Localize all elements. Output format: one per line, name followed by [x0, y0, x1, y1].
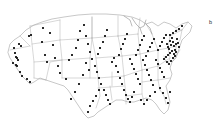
data-point — [129, 58, 131, 60]
data-point — [79, 30, 81, 32]
data-point — [168, 48, 170, 50]
data-point — [129, 101, 131, 103]
data-point — [167, 102, 169, 104]
data-point — [59, 72, 61, 74]
data-point — [12, 62, 14, 64]
data-point — [175, 30, 177, 32]
data-point — [170, 44, 172, 46]
data-point — [173, 45, 175, 47]
data-point — [161, 41, 163, 43]
data-point — [104, 35, 106, 37]
data-point — [109, 103, 111, 105]
data-point — [137, 78, 139, 80]
data-point — [165, 56, 167, 58]
data-point — [120, 48, 122, 50]
data-point — [143, 103, 145, 105]
data-point — [83, 24, 85, 26]
data-point — [124, 38, 126, 40]
usa-basemap — [0, 0, 213, 127]
data-point — [149, 95, 151, 97]
data-point — [150, 79, 152, 81]
data-point — [44, 54, 46, 56]
data-point — [167, 54, 169, 56]
data-point — [149, 46, 151, 48]
data-point — [95, 95, 97, 97]
data-point — [177, 42, 179, 44]
data-point — [107, 99, 109, 101]
data-point — [18, 43, 20, 45]
data-point — [16, 65, 18, 67]
data-point — [169, 40, 171, 42]
data-point — [169, 91, 171, 93]
data-point — [42, 27, 44, 29]
data-point — [13, 47, 15, 49]
data-point — [140, 99, 142, 101]
data-point — [123, 89, 125, 91]
data-point — [89, 105, 91, 107]
data-point — [26, 78, 28, 80]
data-point — [98, 89, 100, 91]
data-point — [121, 83, 123, 85]
data-point — [46, 61, 48, 63]
data-point — [139, 44, 141, 46]
data-point — [147, 50, 149, 52]
data-point — [175, 51, 177, 53]
data-point — [98, 77, 100, 79]
data-point — [159, 67, 161, 69]
data-point — [176, 38, 178, 40]
data-point — [157, 63, 159, 65]
data-point — [159, 45, 161, 47]
data-point — [14, 52, 16, 54]
data-point — [166, 43, 168, 45]
data-point — [148, 74, 150, 76]
data-point — [65, 78, 67, 80]
data-point — [142, 59, 144, 61]
data-point — [92, 100, 94, 102]
data-point — [135, 73, 137, 75]
data-point — [162, 92, 164, 94]
data-point — [161, 71, 163, 73]
data-point — [122, 43, 124, 45]
data-point — [99, 47, 101, 49]
us-national-outline — [8, 14, 192, 118]
data-point — [155, 59, 157, 61]
data-point — [111, 61, 113, 63]
data-point — [170, 60, 172, 62]
data-point — [102, 41, 104, 43]
data-point — [87, 43, 89, 45]
data-point — [88, 69, 90, 71]
data-point — [168, 63, 170, 65]
data-point — [173, 53, 175, 55]
data-point — [70, 98, 72, 100]
data-point — [127, 98, 129, 100]
data-point — [78, 83, 80, 85]
data-point — [139, 83, 141, 85]
data-point — [19, 71, 21, 73]
data-point — [87, 111, 89, 113]
data-point — [137, 49, 139, 51]
data-point — [96, 71, 98, 73]
data-point — [172, 32, 174, 34]
data-point — [151, 42, 153, 44]
dot-density-map-figure: b — [0, 0, 213, 127]
data-point — [171, 50, 173, 52]
data-point — [169, 34, 171, 36]
data-point — [163, 37, 165, 39]
data-point — [52, 44, 54, 46]
data-point — [106, 29, 108, 31]
data-point — [157, 49, 159, 51]
data-point — [145, 55, 147, 57]
data-point — [119, 77, 121, 79]
data-point — [71, 54, 73, 56]
data-point — [143, 35, 145, 37]
data-point — [163, 58, 165, 60]
data-point — [117, 71, 119, 73]
data-point — [166, 61, 168, 63]
data-point — [169, 52, 171, 54]
panel-label: b — [209, 19, 212, 25]
data-point — [165, 34, 167, 36]
data-point — [77, 39, 79, 41]
data-point — [113, 57, 115, 59]
data-point — [141, 39, 143, 41]
data-point — [100, 83, 102, 85]
